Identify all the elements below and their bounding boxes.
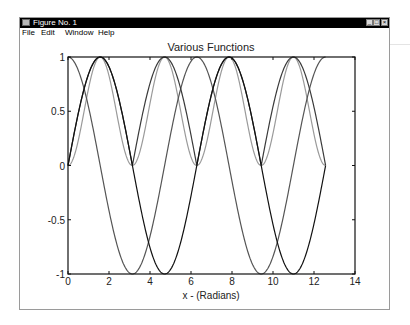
plot-area: Various Functions 02468101214-1-0.500.51… [0, 0, 410, 325]
y-tick-label: 1 [59, 52, 65, 63]
y-tick-label: -1 [56, 269, 65, 280]
x-axis-label: x - (Radians) [182, 290, 239, 301]
axis-ticks: 02468101214-1-0.500.51 [48, 52, 361, 287]
axes-box [68, 57, 355, 274]
x-tick-label: 6 [188, 276, 194, 287]
curve--sin-x- [68, 57, 326, 166]
y-tick-label: 0.5 [51, 106, 65, 117]
x-tick-label: 8 [229, 276, 235, 287]
x-tick-label: 2 [106, 276, 112, 287]
curve-sin-x- [68, 57, 326, 274]
x-tick-label: 14 [349, 276, 361, 287]
y-tick-label: 0 [59, 161, 65, 172]
y-tick-label: -0.5 [48, 215, 66, 226]
x-tick-label: 4 [147, 276, 153, 287]
curve-sin-2-x- [68, 57, 326, 166]
x-tick-label: 10 [267, 276, 279, 287]
x-tick-label: 12 [308, 276, 320, 287]
data-curves [68, 57, 326, 274]
chart-title: Various Functions [167, 41, 255, 53]
x-tick-label: 0 [65, 276, 71, 287]
